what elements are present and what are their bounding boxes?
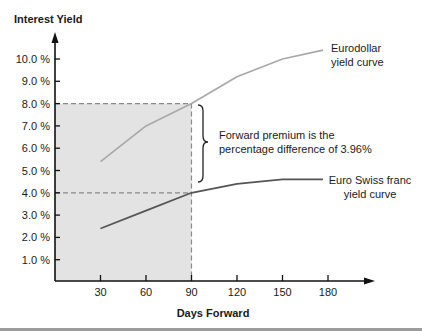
y-axis-arrow-icon (52, 32, 59, 43)
y-tick-label: 7.0 % (22, 120, 50, 132)
x-axis-label: Days Forward (177, 307, 250, 319)
x-tick-label: 60 (140, 286, 152, 298)
annotation-line-1: Forward premium is the (219, 129, 335, 141)
euro-swiss-franc-series-label-line-2: yield curve (344, 188, 397, 200)
chart-title: Interest Yield (14, 13, 82, 25)
y-tick-label: 2.0 % (22, 231, 50, 243)
eurodollar-series-label-line-2: yield curve (331, 56, 384, 68)
eurodollar-series-label-line-1: Eurodollar (331, 42, 381, 54)
yield-curve-chart: 1.0 %2.0 %3.0 %4.0 %5.0 %6.0 %7.0 %8.0 %… (0, 0, 422, 331)
curly-bracket-icon (198, 105, 208, 182)
x-tick-label: 30 (94, 286, 106, 298)
y-axis-ticks: 1.0 %2.0 %3.0 %4.0 %5.0 %6.0 %7.0 %8.0 %… (16, 53, 60, 266)
euro-swiss-franc-series-label-line-1: Euro Swiss franc (329, 174, 412, 186)
x-tick-label: 180 (319, 286, 337, 298)
x-tick-label: 120 (228, 286, 246, 298)
y-tick-label: 1.0 % (22, 254, 50, 266)
y-tick-label: 6.0 % (22, 142, 50, 154)
annotation-line-2: percentage difference of 3.96% (219, 143, 372, 155)
y-tick-label: 8.0 % (22, 98, 50, 110)
y-tick-label: 3.0 % (22, 209, 50, 221)
x-tick-label: 90 (185, 286, 197, 298)
y-tick-label: 9.0 % (22, 75, 50, 87)
x-axis-arrow-icon (364, 278, 375, 285)
y-tick-label: 10.0 % (16, 53, 50, 65)
x-tick-label: 150 (273, 286, 291, 298)
y-tick-label: 4.0 % (22, 187, 50, 199)
y-tick-label: 5.0 % (22, 165, 50, 177)
